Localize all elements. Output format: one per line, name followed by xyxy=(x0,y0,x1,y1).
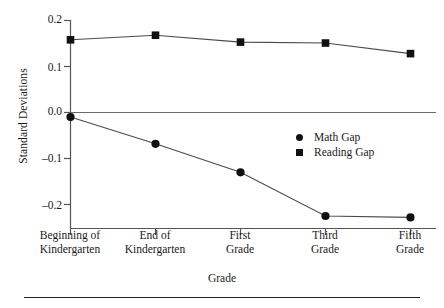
circle-marker-icon xyxy=(296,134,310,141)
legend-label: Reading Gap xyxy=(310,147,374,159)
x-tick-label: Fifth Grade xyxy=(355,229,444,256)
data-series-layer xyxy=(66,31,414,221)
data-point-square xyxy=(322,39,330,47)
legend-label: Math Gap xyxy=(310,132,360,144)
x-axis-tick-labels: Beginning of Kindergarten End of Kinderg… xyxy=(0,229,444,273)
legend-item-reading-gap: Reading Gap xyxy=(296,145,416,160)
square-marker-icon xyxy=(296,149,310,156)
data-point-circle xyxy=(406,213,414,221)
data-point-circle xyxy=(66,113,74,121)
data-point-square xyxy=(152,31,160,39)
data-point-circle xyxy=(236,168,244,176)
chart-figure: Standard Deviations 0.2 0.1 0.0 –0.1 –0.… xyxy=(0,0,444,308)
data-point-square xyxy=(237,38,245,46)
data-point-circle xyxy=(151,140,159,148)
data-point-square xyxy=(407,50,415,58)
y-axis-ticks xyxy=(64,21,71,205)
footer-rule xyxy=(24,297,420,298)
data-point-square xyxy=(67,36,75,44)
series-reading-gap xyxy=(67,31,415,57)
data-point-circle xyxy=(321,212,329,220)
legend-item-math-gap: Math Gap xyxy=(296,130,416,145)
x-axis-title: Grade xyxy=(0,272,444,284)
chart-legend: Math Gap Reading Gap xyxy=(296,130,416,160)
